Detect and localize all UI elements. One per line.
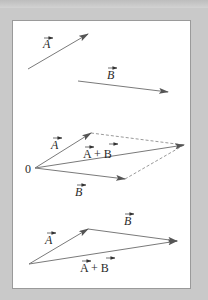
vector-a-label: A: [44, 233, 56, 247]
svg-text:A + B: A + B: [80, 261, 109, 275]
vector-b-arrow: [88, 229, 177, 241]
svg-text:A: A: [44, 233, 53, 247]
svg-text:B: B: [124, 214, 132, 228]
vector-a-arrow: [29, 229, 88, 264]
vector-a-label: A: [50, 138, 62, 152]
dashed-side-top: [91, 133, 184, 145]
panel-3-triangle-rule: A B A + B: [29, 214, 177, 275]
svg-text:B: B: [107, 68, 115, 82]
origin-label: 0: [25, 162, 31, 176]
dashed-side-right: [125, 145, 184, 179]
svg-text:B: B: [75, 185, 83, 199]
vector-sum-label: A + B: [80, 258, 115, 275]
vector-a-arrow: [28, 34, 88, 69]
panel-1-separate-vectors: A B: [28, 34, 168, 92]
vector-b-arrow: [78, 81, 168, 92]
svg-text:A: A: [42, 37, 51, 51]
vector-b-label: B: [124, 214, 134, 228]
svg-text:A + B: A + B: [83, 147, 112, 161]
vector-b-arrow: [35, 168, 125, 179]
vector-b-label: B: [75, 185, 86, 199]
vector-sum-label: A + B: [83, 144, 118, 161]
panel-2-parallelogram-rule: 0 A A + B B: [25, 133, 184, 199]
svg-text:A: A: [50, 138, 59, 152]
vector-addition-diagram: A B 0 A A + B B: [0, 0, 208, 300]
vector-a-label: A: [42, 37, 53, 51]
vector-b-label: B: [107, 68, 117, 82]
